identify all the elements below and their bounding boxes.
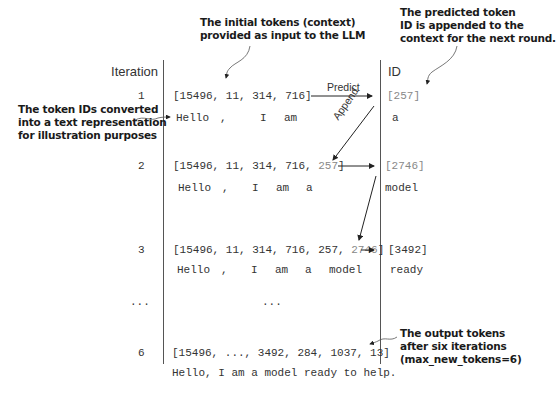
- connector-arrows: [0, 0, 545, 395]
